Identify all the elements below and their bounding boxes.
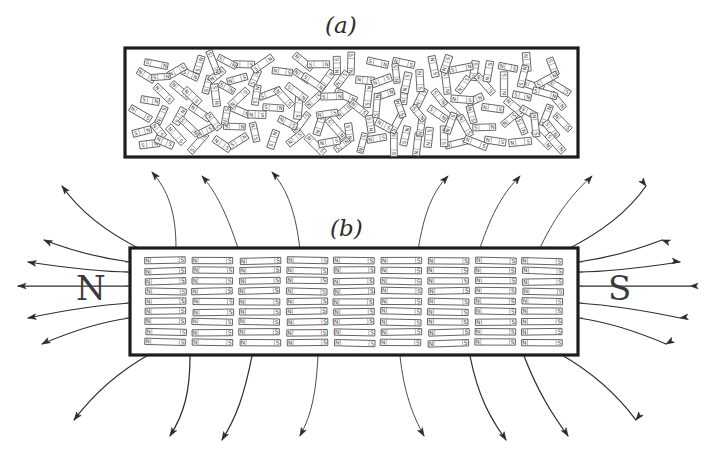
domain-pole-letter-right: S <box>228 319 232 325</box>
domain-pole-letter-left: N <box>429 298 433 304</box>
domain-pole-letter-right: S <box>228 288 232 294</box>
domain-pole-letter-right: S <box>276 267 280 273</box>
domain-pole-letter-left: S <box>364 102 370 106</box>
field-line-arrowhead <box>634 412 643 422</box>
magnetic-domain: NS <box>522 278 563 285</box>
domain-pole-letter-right: N <box>413 150 419 155</box>
magnetic-domain: NS <box>286 288 327 295</box>
magnetic-domain: NS <box>192 339 233 346</box>
domain-pole-letter-left: N <box>194 267 198 273</box>
domain-pole-letter-left: N <box>476 267 480 273</box>
domain-pole-letter-left: N <box>524 288 528 294</box>
domain-pole-letter-right: S <box>370 340 374 346</box>
magnetic-domain: NS <box>381 267 422 274</box>
panel-b-domain-group: NSNSNSNSNSNSNSNSNSNSNSNSNSNSNSNSNSNSNSNS… <box>145 257 564 347</box>
magnetic-domain: NS <box>381 298 422 305</box>
domain-pole-letter-left: N <box>335 267 339 273</box>
pole-label-north: N <box>76 268 106 308</box>
domain-pole-letter-left: N <box>240 318 244 324</box>
domain-pole-letter-left: N <box>522 319 526 325</box>
domain-pole-letter-right: S <box>558 308 562 314</box>
domain-pole-letter-right: N <box>334 69 340 73</box>
domain-pole-letter-right: S <box>392 65 398 69</box>
domain-pole-letter-right: S <box>276 257 280 263</box>
field-line-arrowhead <box>665 338 675 347</box>
domain-pole-letter-right: S <box>511 258 515 264</box>
domain-pole-letter-right: S <box>468 97 472 103</box>
domain-pole-letter-right: S <box>558 268 562 274</box>
domain-pole-letter-right: S <box>322 289 326 295</box>
domain-pole-letter-left: N <box>334 309 338 315</box>
domain-pole-letter-left: N <box>476 319 480 325</box>
magnetic-domain: NS <box>287 318 328 325</box>
domain-pole-letter-left: S <box>533 132 539 136</box>
magnetic-domain: NS <box>473 124 496 131</box>
domain-pole-letter-right: S <box>369 278 373 284</box>
domain-pole-letter-right: S <box>275 277 279 283</box>
domain-pole-letter-right: N <box>338 93 342 99</box>
magnetic-domain: NS <box>240 309 281 315</box>
domain-pole-letter-left: N <box>381 319 385 325</box>
magnetic-domain: NS <box>333 318 374 325</box>
domain-pole-letter-right: S <box>391 152 397 155</box>
magnetic-domain: NS <box>240 257 281 264</box>
domain-pole-letter-left: N <box>193 257 197 263</box>
magnetic-domain: NS <box>381 287 422 294</box>
domain-pole-letter-left: S <box>322 94 325 100</box>
domain-pole-letter-left: N <box>288 257 292 263</box>
field-line-arrowhead <box>661 237 670 245</box>
magnetic-domain: NS <box>240 339 281 346</box>
magnetic-domain: NS <box>239 329 280 335</box>
domain-pole-letter-right: S <box>474 125 477 131</box>
magnetic-domain: SN <box>347 52 354 75</box>
magnetic-domain: NS <box>263 104 284 112</box>
magnetic-domain: NS <box>333 278 374 285</box>
domain-pole-letter-left: S <box>309 61 312 67</box>
domain-pole-letter-left: N <box>382 267 386 273</box>
domain-pole-letter-right: S <box>417 86 423 90</box>
field-line-arrowhead <box>220 432 229 442</box>
domain-pole-letter-left: N <box>193 278 197 284</box>
magnetic-domain: NS <box>428 278 469 284</box>
domain-pole-letter-left: N <box>335 289 339 295</box>
domain-pole-letter-right: S <box>181 257 185 263</box>
domain-pole-letter-left: N <box>241 339 245 345</box>
domain-pole-letter-right: S <box>559 289 563 295</box>
domain-pole-letter-right: N <box>374 94 380 98</box>
domain-pole-letter-right: S <box>558 298 562 304</box>
domain-pole-letter-left: N <box>146 298 150 304</box>
domain-pole-letter-right: S <box>323 330 327 336</box>
domain-pole-letter-right: S <box>261 112 265 118</box>
magnetic-domain: NS <box>334 329 375 336</box>
magnetic-domain: NS <box>522 267 563 275</box>
domain-pole-letter-right: S <box>464 299 468 305</box>
domain-pole-letter-left: N <box>491 124 495 130</box>
magnetic-domain: NS <box>287 277 328 284</box>
magnetic-domain: NS <box>429 287 470 294</box>
domain-pole-letter-right: S <box>369 299 373 305</box>
domain-pole-letter-right: S <box>511 308 515 314</box>
domain-pole-letter-right: S <box>416 339 420 345</box>
domain-pole-letter-right: S <box>323 257 327 263</box>
domain-pole-letter-left: N <box>452 96 456 102</box>
magnetic-domain: NS <box>522 258 563 265</box>
domain-pole-letter-right: S <box>323 277 327 283</box>
magnetic-domain: NS <box>475 267 516 274</box>
magnetic-domain: NS <box>334 257 375 264</box>
magnetic-domain: NS <box>381 329 422 336</box>
domain-pole-letter-right: S <box>441 142 447 145</box>
domain-pole-letter-left: S <box>287 69 291 75</box>
domain-pole-letter-left: N <box>145 338 149 344</box>
magnetic-domain: NS <box>381 308 422 315</box>
magnetic-domain: NS <box>239 299 280 306</box>
domain-pole-letter-left: N <box>288 298 292 304</box>
domain-pole-letter-right: S <box>229 267 233 273</box>
field-line-arrowhead <box>680 314 689 321</box>
domain-pole-letter-left: N <box>287 288 291 294</box>
pole-label-south: S <box>608 268 631 308</box>
field-line-arrowhead <box>43 237 53 245</box>
domain-pole-letter-right: S <box>181 339 185 345</box>
domain-pole-letter-left: N <box>193 318 197 324</box>
domain-pole-letter-left: N <box>287 277 291 283</box>
domain-pole-letter-right: S <box>511 298 515 304</box>
